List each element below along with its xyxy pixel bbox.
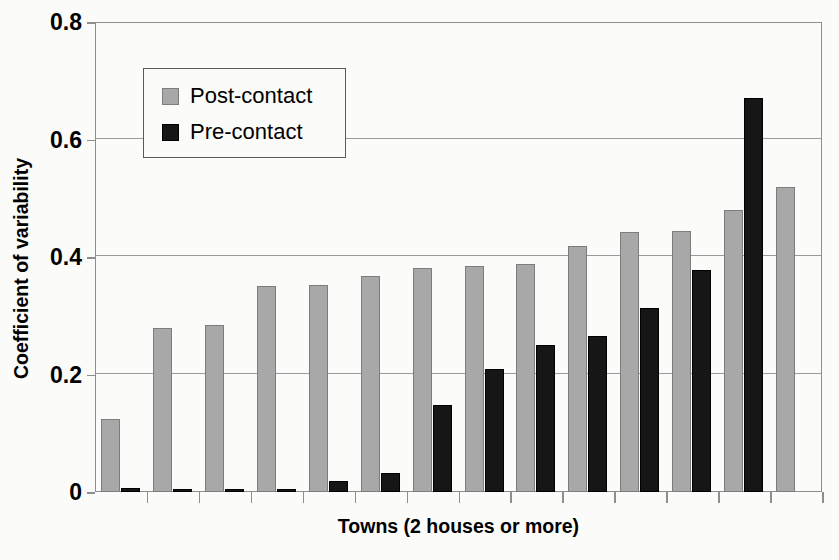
x-axis-tick-mark <box>770 492 772 503</box>
bar-post-contact <box>465 266 484 492</box>
bar-post-contact <box>205 325 224 492</box>
bar-post-contact <box>620 232 639 492</box>
x-axis-tick-mark <box>614 492 616 503</box>
bar-pre-contact <box>277 489 296 492</box>
x-axis-tick-mark <box>355 492 357 503</box>
bar-pre-contact <box>536 345 555 492</box>
bar-post-contact <box>257 286 276 492</box>
bar-post-contact <box>568 246 587 492</box>
chart-figure: 00.20.40.60.8 Coefficient of variability… <box>0 0 839 560</box>
bar-post-contact <box>153 328 172 493</box>
x-axis-tick-mark <box>822 492 824 503</box>
bar-pre-contact <box>173 489 192 492</box>
x-axis-tick-mark <box>562 492 564 503</box>
legend-swatch-pre-contact-icon <box>162 124 179 141</box>
bar-post-contact <box>309 285 328 492</box>
bar-pre-contact <box>433 405 452 492</box>
x-axis-tick-mark <box>718 492 720 503</box>
x-axis-tick-mark <box>303 492 305 503</box>
legend-label-post-contact: Post-contact <box>190 85 312 107</box>
x-axis-tick-mark <box>251 492 253 503</box>
bar-post-contact <box>516 264 535 492</box>
bar-pre-contact <box>640 308 659 492</box>
y-axis-title: Coefficient of variability <box>10 59 33 479</box>
bar-pre-contact <box>588 336 607 492</box>
y-axis-tick-mark <box>87 257 95 259</box>
bar-post-contact <box>776 187 795 493</box>
y-axis-tick-mark <box>87 492 95 494</box>
x-axis-tick-mark <box>407 492 409 503</box>
bar-post-contact <box>724 210 743 492</box>
legend-swatch-post-contact-icon <box>162 88 179 105</box>
legend-item-pre-contact: Pre-contact <box>162 114 345 150</box>
bar-pre-contact <box>329 481 348 492</box>
bar-post-contact <box>413 268 432 492</box>
x-axis-title: Towns (2 houses or more) <box>95 515 822 538</box>
y-axis-tick-label: 0 <box>8 481 82 504</box>
legend-label-pre-contact: Pre-contact <box>190 121 303 143</box>
x-axis-tick-mark <box>147 492 149 503</box>
bar-pre-contact <box>485 369 504 492</box>
x-axis-tick-mark <box>459 492 461 503</box>
bar-pre-contact <box>381 473 400 492</box>
bar-pre-contact <box>692 270 711 492</box>
y-axis-tick-mark <box>87 140 95 142</box>
y-axis-tick-mark <box>87 375 95 377</box>
x-axis-tick-mark <box>199 492 201 503</box>
bar-pre-contact <box>744 98 763 492</box>
chart-legend: Post-contact Pre-contact <box>143 68 346 158</box>
bar-post-contact <box>101 419 120 492</box>
legend-item-post-contact: Post-contact <box>162 78 345 114</box>
x-axis-tick-mark <box>510 492 512 503</box>
bar-pre-contact <box>121 488 140 492</box>
y-axis-tick-mark <box>87 22 95 24</box>
bar-post-contact <box>361 276 380 492</box>
y-axis-tick-label: 0.8 <box>8 11 82 34</box>
bar-post-contact <box>672 231 691 492</box>
bar-pre-contact <box>225 489 244 492</box>
x-axis-tick-mark <box>666 492 668 503</box>
